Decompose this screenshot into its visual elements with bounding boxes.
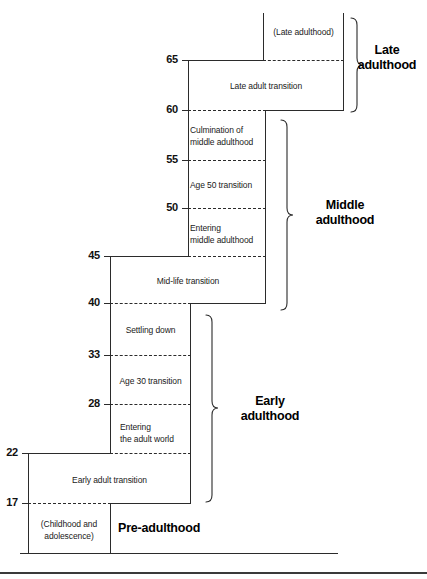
era-label-late-adulthood-line1: Late	[375, 43, 400, 57]
era-label-early-adulthood-line2: adulthood	[241, 409, 300, 423]
tick-17	[22, 503, 28, 504]
era-label-middle-adulthood-line2: adulthood	[316, 213, 375, 227]
period-label-late-adult-transition: Late adult transition	[188, 80, 344, 92]
tick-50	[182, 208, 188, 209]
tick-55	[182, 160, 188, 161]
bracket-early-adulthood	[204, 313, 220, 504]
tick-45	[104, 256, 110, 257]
era-label-middle-adulthood: Middle adulthood	[300, 198, 390, 228]
axis-label-40: 40	[72, 297, 100, 308]
dash-line-45	[188, 256, 266, 257]
step-line-65	[188, 60, 264, 61]
era-label-late-adulthood: Late adulthood	[348, 43, 426, 73]
period-label-entering-adult-world-line2: the adult world	[120, 433, 194, 445]
period-label-childhood-line1: (Childhood and	[28, 518, 110, 530]
axis-label-60: 60	[150, 104, 178, 115]
period-label-early-adult-transition: Early adult transition	[28, 474, 191, 486]
footer-rule	[0, 572, 427, 574]
period-label-age-50-transition: Age 50 transition	[190, 179, 264, 191]
period-label-age-30-transition: Age 30 transition	[110, 375, 191, 387]
dash-line-28	[110, 404, 191, 405]
period-label-late-adulthood-paren: (Late adulthood)	[263, 26, 344, 38]
bracket-middle-adulthood	[279, 118, 295, 312]
axis-label-28: 28	[72, 398, 100, 409]
tick-60	[182, 110, 188, 111]
axis-label-22: 22	[0, 447, 18, 458]
step-line-40	[190, 303, 266, 304]
levinson-life-structure-diagram: 65 60 55 50 45 40 33 28 22 17 (Late adul…	[0, 0, 427, 579]
dash-line-17	[28, 503, 111, 504]
tick-28	[104, 404, 110, 405]
dash-line-33	[110, 355, 191, 356]
axis-label-45: 45	[72, 250, 100, 261]
dash-line-22	[110, 453, 191, 454]
step-line-45	[110, 256, 189, 257]
step-line-60	[265, 110, 344, 111]
period-label-childhood-line2: adolescence)	[28, 530, 110, 542]
axis-label-33: 33	[72, 349, 100, 360]
dash-line-65	[263, 60, 344, 61]
era-label-pre-adulthood: Pre-adulthood	[118, 521, 248, 536]
period-label-settling-down: Settling down	[110, 324, 191, 336]
era-label-early-adulthood-line1: Early	[255, 394, 285, 408]
edge-childhood-right	[110, 503, 111, 554]
period-label-entering-middle-adulthood-line1: Entering	[190, 222, 264, 234]
period-label-culmination-middle-adulthood-line1: Culmination of	[190, 124, 264, 136]
step-line-17	[110, 503, 191, 504]
axis-label-55: 55	[150, 154, 178, 165]
period-label-entering-middle-adulthood-line2: middle adulthood	[190, 234, 264, 246]
tick-33	[104, 355, 110, 356]
axis-label-17: 17	[0, 497, 18, 508]
period-label-entering-adult-world-line1: Entering	[120, 421, 194, 433]
axis-label-50: 50	[150, 202, 178, 213]
period-label-midlife-transition: Mid-life transition	[110, 275, 266, 287]
era-label-late-adulthood-line2: adulthood	[358, 58, 417, 72]
axis-label-65: 65	[150, 54, 178, 65]
step-line-22	[28, 453, 111, 454]
tick-22	[22, 453, 28, 454]
edge-middle-adulthood-left	[188, 110, 189, 256]
baseline-axis	[20, 553, 338, 554]
era-label-early-adulthood: Early adulthood	[225, 394, 315, 424]
dash-line-40	[110, 303, 191, 304]
era-label-middle-adulthood-line1: Middle	[326, 198, 364, 212]
period-label-culmination-middle-adulthood-line2: middle adulthood	[190, 136, 264, 148]
tick-40	[104, 303, 110, 304]
dash-line-50	[188, 208, 266, 209]
tick-65	[182, 60, 188, 61]
dash-line-60	[188, 110, 266, 111]
dash-line-55	[188, 160, 266, 161]
